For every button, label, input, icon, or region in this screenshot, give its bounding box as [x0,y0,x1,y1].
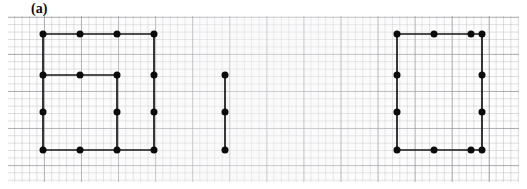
vertex-dot [151,147,158,154]
vertex-dot [479,31,486,38]
vertex-dot [394,147,401,154]
vertex-dot [114,72,121,79]
vertex-dot [77,72,84,79]
lattice-drawing [0,0,527,189]
vertex-dot [222,109,229,116]
vertex-dot [40,31,47,38]
vertex-dot [431,31,438,38]
vertex-dot [431,147,438,154]
vertex-dot [222,147,229,154]
figure-panel: (a) [0,0,527,189]
vertex-dot [151,109,158,116]
vertex-dot [77,31,84,38]
vertex-dot [114,147,121,154]
vertex-dot [40,147,47,154]
vertex-dot [151,31,158,38]
right-rectangle-figure [394,31,486,154]
vertex-dot [394,72,401,79]
vertex-dot [468,147,475,154]
vertex-dot [114,31,121,38]
vertex-dot [151,72,158,79]
middle-segment-figure [222,72,229,154]
vertex-dot [40,72,47,79]
vertex-dot [468,31,475,38]
vertex-dot [394,31,401,38]
vertex-dot [479,147,486,154]
vertex-dot [114,109,121,116]
vertex-dot [40,109,47,116]
vertex-dot [479,72,486,79]
vertex-dot [77,147,84,154]
vertex-dot [394,109,401,116]
vertex-dot [479,109,486,116]
left-polyline-figure [40,31,158,154]
vertex-dot [222,72,229,79]
